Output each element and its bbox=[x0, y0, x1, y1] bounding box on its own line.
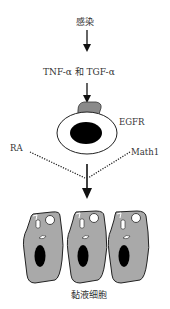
arrow-cytokines-to-receptor bbox=[83, 83, 91, 103]
cytokines-label: TNF-α 和 TGF-α bbox=[43, 67, 115, 77]
math1-dotted-line bbox=[88, 152, 130, 178]
ra-label: RA bbox=[10, 143, 23, 153]
mucous-cell-1 bbox=[23, 212, 63, 283]
infection-label: 感染 bbox=[76, 17, 94, 27]
mucous-cell-3 bbox=[108, 211, 148, 283]
egfr-label: EGFR bbox=[119, 117, 144, 127]
mucous-cells-label: 黏液细胞 bbox=[71, 290, 107, 300]
cell-nucleus bbox=[70, 122, 102, 144]
arrow-infection-to-cytokines bbox=[83, 30, 91, 52]
ra-dotted-line bbox=[30, 152, 85, 178]
math1-label: Math1 bbox=[131, 147, 159, 157]
arrow-receptor-to-cells bbox=[82, 164, 92, 199]
mucous-cell-2 bbox=[67, 211, 106, 283]
